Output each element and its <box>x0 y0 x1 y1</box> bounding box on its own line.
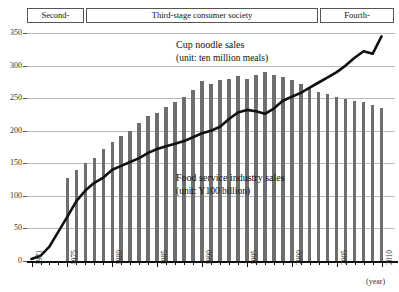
bar-1980 <box>111 142 115 261</box>
bar-1979 <box>102 149 106 261</box>
chart-root: Second- Third-stage consumer society Fou… <box>0 0 399 292</box>
x-tick-1978 <box>94 261 95 265</box>
stage-box-second: Second- <box>27 8 84 23</box>
stage-box-fourth: Fourth- <box>320 8 394 23</box>
x-tick-1998 <box>274 261 275 265</box>
bar-1982 <box>128 131 132 261</box>
x-tick-2007 <box>355 261 356 265</box>
bar-2003 <box>317 92 321 261</box>
gridline-300 <box>27 66 395 67</box>
y-tick-label-0: 0 <box>0 257 22 265</box>
x-tick-1994 <box>238 261 239 265</box>
bar-1977 <box>84 163 88 261</box>
x-tick-1997 <box>265 261 266 265</box>
x-tick-2003 <box>319 261 320 265</box>
bar-2004 <box>326 94 330 261</box>
x-tick-1988 <box>184 261 185 265</box>
x-tick-label-2005: 2005 <box>340 250 349 265</box>
bar-2006 <box>344 99 348 261</box>
x-tick-2009 <box>373 261 374 265</box>
bar-2000 <box>290 80 294 261</box>
bar-1975 <box>66 178 70 261</box>
x-tick-2002 <box>310 261 311 265</box>
bar-1981 <box>119 136 123 261</box>
bar-1992 <box>218 80 222 261</box>
y-tick-label-200: 200 <box>0 127 22 135</box>
bar-2002 <box>308 88 312 261</box>
y-tick-label-300: 300 <box>0 62 22 70</box>
y-tick-label-150: 150 <box>0 159 22 167</box>
y-tick-label-50: 50 <box>0 224 22 232</box>
x-tick-1974 <box>58 261 59 265</box>
bar-1984 <box>146 116 150 261</box>
x-tick-label-1990: 1990 <box>205 250 214 265</box>
bar-1994 <box>236 76 240 261</box>
x-tick-1979 <box>103 261 104 265</box>
bar-1986 <box>164 107 168 261</box>
y-tick-label-350: 350 <box>0 29 22 37</box>
stage-banner: Second- Third-stage consumer society Fou… <box>0 0 399 26</box>
bar-2007 <box>353 101 357 261</box>
bar-2010 <box>380 108 384 261</box>
x-tick-1993 <box>229 261 230 265</box>
x-tick-1999 <box>283 261 284 265</box>
x-tick-1984 <box>148 261 149 265</box>
bar-1993 <box>227 79 231 261</box>
x-tick-1980 <box>112 261 113 267</box>
x-tick-1971 <box>32 261 33 267</box>
annotation-cup-noodle: Cup noodle sales (unit: ten million meal… <box>176 39 268 64</box>
bar-1997 <box>263 72 267 261</box>
bar-1976 <box>75 170 79 261</box>
bar-1983 <box>137 123 141 261</box>
annotation-cup-noodle-unit: (unit: ten million meals) <box>176 52 268 65</box>
x-tick-label-1985: 1985 <box>160 250 169 265</box>
x-tick-1989 <box>193 261 194 265</box>
stage-box-third: Third-stage consumer society <box>86 8 318 23</box>
x-tick-1987 <box>175 261 176 265</box>
bar-2005 <box>335 97 339 261</box>
bar-2008 <box>362 102 366 261</box>
x-tick-2008 <box>364 261 365 265</box>
x-tick-1985 <box>157 261 158 267</box>
bar-1999 <box>281 77 285 261</box>
bar-2009 <box>371 105 375 261</box>
bar-1985 <box>155 113 159 262</box>
x-tick-2010 <box>382 261 383 267</box>
annotation-cup-noodle-title: Cup noodle sales <box>176 39 268 52</box>
x-tick-2005 <box>337 261 338 267</box>
gridline-350 <box>27 33 395 34</box>
x-tick-1995 <box>247 261 248 267</box>
annotation-food-service-title: Food service industry sales <box>176 172 285 185</box>
y-tick-label-100: 100 <box>0 192 22 200</box>
x-tick-label-1975: 1975 <box>70 250 79 265</box>
bar-2001 <box>299 84 303 261</box>
x-tick-1975 <box>67 261 68 267</box>
bar-1996 <box>254 75 258 261</box>
x-tick-1982 <box>130 261 131 265</box>
x-tick-label-1971: 1971 <box>35 250 44 265</box>
x-tick-2000 <box>292 261 293 267</box>
x-tick-label-2000: 2000 <box>295 250 304 265</box>
bar-1998 <box>272 75 276 261</box>
y-tick-label-250: 250 <box>0 94 22 102</box>
x-tick-label-1980: 1980 <box>115 250 124 265</box>
plot-area <box>27 33 395 261</box>
bar-1978 <box>93 158 97 261</box>
x-tick-1977 <box>85 261 86 265</box>
x-tick-1973 <box>49 261 50 265</box>
x-tick-1990 <box>202 261 203 267</box>
x-tick-label-1995: 1995 <box>250 250 259 265</box>
x-tick-1992 <box>220 261 221 265</box>
bar-1995 <box>245 79 249 261</box>
x-tick-2004 <box>328 261 329 265</box>
x-tick-label-2010: 2010 <box>385 250 394 265</box>
x-axis-unit-label: (year) <box>366 277 385 286</box>
annotation-food-service-unit: (unit: Y100 billion) <box>176 185 285 198</box>
annotation-food-service: Food service industry sales (unit: Y100 … <box>176 172 285 197</box>
x-tick-1983 <box>139 261 140 265</box>
